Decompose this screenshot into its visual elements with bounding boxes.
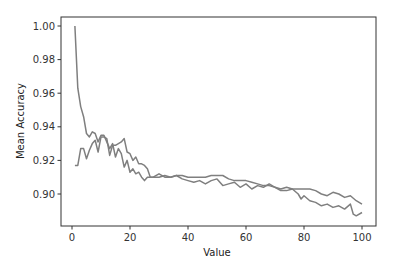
- x-tick-label: 60: [240, 232, 253, 243]
- x-tick-label: 20: [124, 232, 137, 243]
- y-tick-label: 0.98: [33, 54, 55, 65]
- line-chart: 020406080100 0.900.920.940.960.981.00 Va…: [0, 0, 397, 269]
- x-tick-label: 100: [352, 232, 371, 243]
- x-tick-label: 0: [69, 232, 75, 243]
- y-tick-label: 0.94: [33, 121, 55, 132]
- x-tick-label: 80: [298, 232, 311, 243]
- y-tick-label: 1.00: [33, 21, 55, 32]
- y-axis-label: Mean Accuracy: [15, 83, 26, 159]
- plot-lines: [75, 26, 362, 216]
- y-tick-label: 0.92: [33, 155, 55, 166]
- x-tick-label: 40: [182, 232, 195, 243]
- y-axis-ticks: 0.900.920.940.960.981.00: [33, 21, 61, 200]
- line-series-1: [75, 26, 362, 216]
- x-axis-label: Value: [203, 247, 230, 258]
- y-tick-label: 0.96: [33, 88, 55, 99]
- y-tick-label: 0.90: [33, 189, 55, 200]
- x-axis-ticks: 020406080100: [69, 226, 372, 243]
- line-series-2: [75, 137, 362, 204]
